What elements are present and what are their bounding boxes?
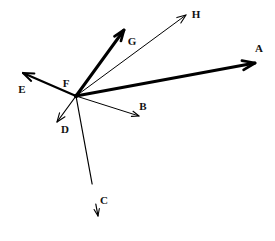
ray-g-shaft: [76, 30, 124, 96]
ray-label-a: A: [255, 43, 263, 54]
ray-c: [76, 96, 99, 216]
ray-h: [76, 15, 186, 96]
ray-b: [76, 96, 139, 116]
ray-c-shaft: [76, 96, 92, 184]
rays-svg: [0, 0, 275, 241]
vertex-label-f: F: [63, 78, 70, 89]
ray-diagram-canvas: ABCDEGHF: [0, 0, 275, 241]
ray-label-h: H: [192, 9, 201, 20]
ray-b-shaft: [76, 96, 139, 116]
ray-d: [57, 96, 76, 122]
ray-h-shaft: [76, 15, 186, 96]
ray-a-shaft: [76, 63, 255, 96]
vertex-point-f: [74, 94, 78, 98]
ray-d-shaft: [57, 96, 76, 122]
ray-label-c: C: [100, 195, 108, 206]
ray-a: [76, 61, 255, 96]
ray-label-b: B: [139, 101, 146, 112]
ray-label-e: E: [18, 84, 25, 95]
ray-g: [76, 30, 124, 96]
ray-label-d: D: [61, 124, 69, 135]
ray-label-g: G: [128, 36, 137, 47]
